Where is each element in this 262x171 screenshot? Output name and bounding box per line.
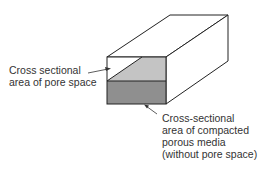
media-label-line-3: porous media [162,136,226,148]
compacted-media-arrow [144,105,157,115]
media-label-line-4: (without pore space) [162,148,257,160]
pore-label-line-2: area of pore space [9,76,97,88]
pore-space-label: Cross sectional area of pore space [9,64,97,88]
compacted-media-label: Cross-sectional area of compacted porous… [162,112,257,160]
porous-media-block-diagram: Cross sectional area of pore space Cross… [0,0,262,171]
pore-label-line-1: Cross sectional [9,64,81,76]
media-label-line-1: Cross-sectional [162,112,234,124]
front-cross-section [107,57,166,104]
media-label-line-2: area of compacted [162,124,249,136]
compacted-media-area [107,81,166,104]
